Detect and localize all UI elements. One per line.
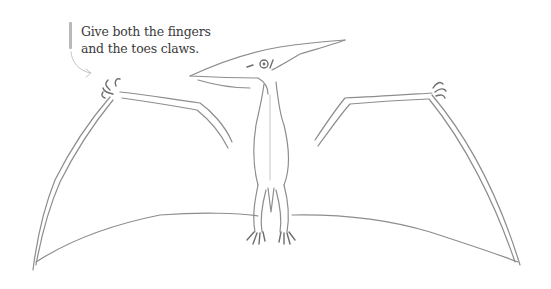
feet-claws: [247, 232, 295, 244]
head: [190, 40, 345, 94]
right-wing: [292, 83, 520, 265]
body: [254, 82, 289, 232]
pointer-arrow-icon: [71, 52, 91, 77]
pterodactyl-illustration: [0, 0, 551, 289]
left-wing: [33, 79, 258, 270]
